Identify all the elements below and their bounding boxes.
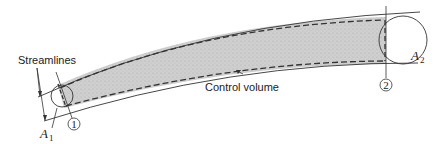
area-2-label: A bbox=[410, 48, 419, 63]
control-volume-label: Control volume bbox=[205, 81, 279, 93]
area-2-subscript: 2 bbox=[420, 55, 425, 65]
section-2-label: 2 bbox=[383, 79, 389, 91]
stream-tube-diagram: 1 2 A 2 Streamlines A 1 Control volume bbox=[0, 0, 439, 144]
section-1-label: 1 bbox=[71, 118, 77, 130]
area-1-label: A bbox=[39, 126, 48, 141]
area-1-subscript: 1 bbox=[49, 133, 54, 143]
streamlines-label: Streamlines bbox=[18, 54, 77, 66]
